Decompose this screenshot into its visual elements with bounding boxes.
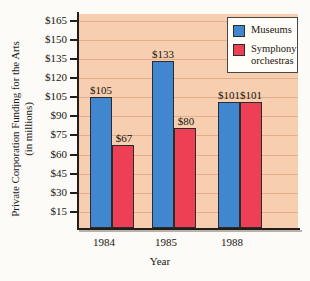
legend-label-symphony-line1: Symphony (251, 43, 297, 55)
bar-value-museums-1985: $133 (136, 48, 190, 60)
y-tick-label-120: $120 (11, 71, 67, 83)
y-tick-75 (70, 134, 79, 136)
y-tick-15 (70, 211, 79, 213)
x-tick-label-1984: 1984 (74, 236, 134, 248)
legend-label-symphony-line2: orchestras (251, 55, 297, 67)
y-tick-label-60: $60 (11, 148, 67, 160)
y-tick-45 (70, 173, 79, 175)
bar-museums-1984 (90, 97, 112, 228)
y-tick-label-45: $45 (11, 167, 67, 179)
legend-entry-symphony: Symphony orchestras (233, 43, 297, 66)
bar-value-museums-1984: $105 (74, 84, 128, 96)
y-tick-165 (70, 20, 79, 22)
y-tick-135 (70, 58, 79, 60)
y-tick-30 (70, 192, 79, 194)
y-tick-label-105: $105 (11, 90, 67, 102)
y-tick-label-15: $15 (11, 205, 67, 217)
x-axis-shadow (79, 230, 302, 232)
y-tick-120 (70, 77, 79, 79)
x-tick-label-1985: 1985 (136, 236, 196, 248)
y-tick-150 (70, 39, 79, 41)
legend: Museums Symphony orchestras (227, 17, 298, 73)
bar-value-symphony-1984: $67 (97, 132, 151, 144)
legend-swatch-symphony (233, 44, 245, 56)
y-tick-60 (70, 154, 79, 156)
bar-museums-1985 (152, 61, 174, 228)
y-tick-105 (70, 96, 79, 98)
y-tick-90 (70, 115, 79, 117)
bar-value-symphony-1988: $101 (224, 89, 278, 101)
bar-symphony-1988 (240, 102, 262, 228)
y-tick-label-150: $150 (11, 33, 67, 45)
y-tick-label-30: $30 (11, 186, 67, 198)
y-axis-line (77, 12, 79, 230)
y-tick-label-75: $75 (11, 128, 67, 140)
x-axis-title: Year (50, 255, 270, 267)
x-tick-label-1988: 1988 (202, 236, 262, 248)
legend-entry-museums: Museums (233, 24, 292, 37)
y-tick-label-135: $135 (11, 52, 67, 64)
legend-swatch-museums (233, 25, 245, 37)
bar-symphony-1985 (174, 128, 196, 228)
bar-chart: Private Corporation Funding for the Arts… (0, 0, 310, 281)
bar-museums-1988 (218, 102, 240, 228)
y-tick-label-165: $165 (11, 14, 67, 26)
gridline-120 (78, 78, 298, 79)
bar-value-symphony-1985: $80 (159, 115, 213, 127)
x-axis-line (77, 228, 300, 230)
y-tick-label-90: $90 (11, 109, 67, 121)
legend-label-museums: Museums (251, 24, 292, 36)
bar-symphony-1984 (112, 145, 134, 228)
